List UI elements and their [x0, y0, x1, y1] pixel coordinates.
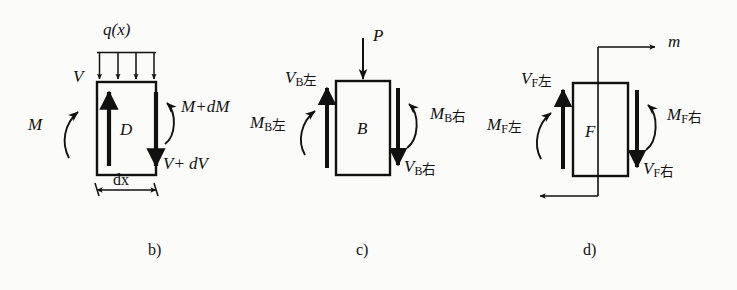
moment-arc-left-b: [65, 112, 78, 158]
label-shear-left-c-sub-cn: 左: [303, 72, 317, 88]
label-point-load-p: P: [373, 27, 383, 44]
label-moment-right-d-sub-cn: 右: [688, 109, 702, 125]
label-shear-left-c: VB左: [285, 69, 317, 89]
moment-arc-right-b: [165, 103, 174, 144]
label-dimension-dx: dx: [113, 172, 129, 188]
body-letter-b: B: [357, 119, 367, 139]
label-moment-right-c-symbol: M: [430, 104, 444, 123]
moment-arc-right-d: [646, 105, 656, 150]
label-moment-right-d-sub: F: [681, 112, 688, 126]
label-shear-right-c: VB右: [404, 158, 436, 178]
label-shear-right-c-sub-cn: 右: [422, 161, 436, 177]
label-moment-right-d: MF右: [667, 106, 702, 126]
label-moment-left-c: MB左: [250, 114, 286, 134]
label-shear-right-d: VF右: [643, 160, 674, 180]
label-shear-left-d: VF左: [521, 70, 552, 90]
moment-arc-right-c: [407, 104, 417, 148]
panel-d-drawing: [537, 47, 656, 196]
body-letter-f: F: [585, 122, 595, 142]
moment-arc-left-c: [301, 111, 315, 155]
caption-panel-d: d): [583, 241, 596, 259]
label-shear-right-c-symbol: V: [404, 157, 414, 176]
moment-arc-left-d: [537, 113, 551, 159]
label-moment-left-c-sub: B: [264, 120, 272, 134]
body-letter-d: D: [120, 120, 132, 140]
label-shear-right-d-symbol: V: [643, 159, 653, 178]
label-moment-right-c-sub-cn: 右: [452, 108, 466, 124]
label-moment-left-c-sub-cn: 左: [272, 117, 286, 133]
label-shear-left-c-symbol: V: [285, 68, 295, 87]
label-moment-left-d-symbol: M: [487, 115, 501, 134]
label-moment-left-d-sub: F: [501, 122, 508, 136]
label-moment-left-c-symbol: M: [250, 113, 264, 132]
label-distributed-load-qx: q(x): [103, 21, 130, 38]
figure-drawing-canvas: [0, 0, 737, 290]
label-shear-left-d-symbol: V: [521, 69, 531, 88]
caption-panel-c: c): [356, 241, 368, 259]
label-shear-left-b: V: [73, 68, 83, 85]
figure-root: q(x) V M M+dM V+ dV dx D P VB左 MB左 MB右 V…: [0, 0, 737, 290]
label-moment-right-c: MB右: [430, 105, 466, 125]
label-moment-left-b: M: [28, 116, 42, 133]
element-body-f: [573, 83, 628, 176]
label-moment-left-d: MF左: [487, 116, 522, 136]
label-couple-moment-m: m: [668, 33, 680, 50]
label-shear-right-d-sub-cn: 右: [660, 163, 674, 179]
label-moment-right-d-symbol: M: [667, 105, 681, 124]
label-moment-right-c-sub: B: [444, 111, 452, 125]
caption-panel-b: b): [148, 241, 161, 259]
label-moment-right-b: M+dM: [181, 98, 229, 115]
label-shear-left-d-sub-cn: 左: [538, 73, 552, 89]
label-moment-left-d-sub-cn: 左: [508, 119, 522, 135]
panel-c-drawing: [301, 38, 417, 175]
label-shear-right-b: V+ dV: [163, 155, 208, 172]
